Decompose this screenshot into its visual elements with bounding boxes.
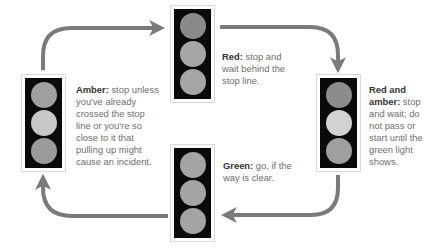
light-housing bbox=[320, 78, 357, 168]
light-housing bbox=[25, 78, 62, 168]
traffic-light-red bbox=[170, 5, 215, 103]
lamp-bottom bbox=[180, 69, 206, 95]
lamp-middle bbox=[31, 110, 57, 136]
arrow-green-to-amber bbox=[43, 181, 168, 216]
caption-text: stop unless you've already crossed the s… bbox=[76, 84, 159, 167]
caption-amber: Amber: stop unless you've already crosse… bbox=[76, 84, 160, 168]
traffic-light-green bbox=[170, 144, 215, 242]
caption-label: Green: bbox=[223, 160, 253, 171]
traffic-light-amber bbox=[21, 74, 66, 172]
lamp-middle bbox=[180, 180, 206, 206]
lamp-top bbox=[180, 152, 206, 178]
lamp-top bbox=[180, 13, 206, 39]
caption-red-and-amber: Red and amber: stop and wait; do not pas… bbox=[369, 84, 435, 168]
traffic-light-red-and-amber bbox=[316, 74, 361, 172]
lamp-bottom bbox=[31, 138, 57, 164]
lamp-bottom bbox=[326, 138, 352, 164]
lamp-middle bbox=[326, 110, 352, 136]
caption-label: Red: bbox=[222, 51, 243, 62]
lamp-top bbox=[326, 82, 352, 108]
caption-green: Green: go, if the way is clear. bbox=[223, 160, 295, 184]
lamp-bottom bbox=[180, 208, 206, 234]
light-housing bbox=[174, 148, 211, 238]
caption-label: Amber: bbox=[76, 84, 109, 95]
caption-red: Red: stop and wait behind the stop line. bbox=[222, 51, 292, 87]
arrow-amber-to-red bbox=[43, 28, 158, 70]
light-housing bbox=[174, 9, 211, 99]
lamp-middle bbox=[180, 41, 206, 67]
lamp-top bbox=[31, 82, 57, 108]
